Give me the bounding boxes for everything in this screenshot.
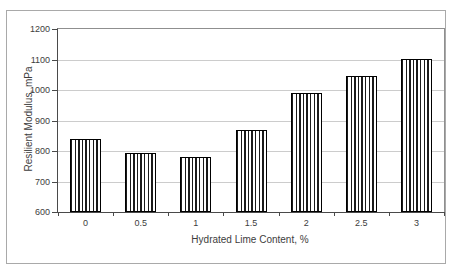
y-tick-mark [52,212,57,213]
x-tick-label: 3 [399,218,433,228]
plot-area: 60070080090010001100120000.511.522.53 [57,28,445,213]
x-tick-label: 2.5 [344,218,378,228]
chart-figure: Resilient Modulus, mPa 60070080090010001… [0,0,453,274]
bar [236,130,267,212]
x-tick-mark [334,212,335,216]
y-tick-label: 1100 [31,55,50,65]
x-tick-mark [389,212,390,216]
x-tick-mark [444,212,445,216]
x-tick-mark [223,212,224,216]
x-axis-title: Hydrated Lime Content, % [57,234,443,245]
x-tick-label: 1.5 [234,218,268,228]
y-tick-label: 900 [35,116,50,126]
y-tick-mark [52,121,57,122]
y-tick-label: 800 [35,146,50,156]
y-axis-title: Resilient Modulus, mPa [23,66,34,171]
figure-border: Resilient Modulus, mPa 60070080090010001… [6,10,446,264]
x-tick-label: 0 [69,218,103,228]
bar [180,157,211,212]
x-tick-mark [58,212,59,216]
x-tick-label: 2 [289,218,323,228]
gridline [58,121,444,122]
bar [291,93,322,212]
bar [346,76,377,212]
y-tick-mark [52,90,57,91]
y-tick-label: 1000 [30,85,50,95]
bar [125,153,156,212]
y-tick-label: 700 [35,177,50,187]
x-tick-label: 1 [179,218,213,228]
y-tick-mark [52,151,57,152]
x-tick-mark [279,212,280,216]
y-tick-mark [52,182,57,183]
y-tick-label: 1200 [30,24,50,34]
x-tick-mark [113,212,114,216]
bar [70,139,101,212]
x-tick-label: 0.5 [124,218,158,228]
gridline [58,90,444,91]
y-tick-label: 600 [35,207,50,217]
y-tick-mark [52,60,57,61]
bar [401,59,432,212]
gridline [58,60,444,61]
y-tick-mark [52,29,57,30]
x-tick-mark [168,212,169,216]
